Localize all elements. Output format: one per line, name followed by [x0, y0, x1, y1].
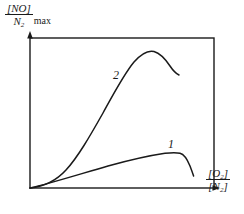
- curve-2-label: 2: [113, 68, 119, 83]
- curve-1-label: 1: [168, 137, 174, 152]
- figure-container: [NO] N2 max [O2] [N2] 2 1: [0, 0, 244, 214]
- y-axis-label: [NO] N2 max: [5, 3, 51, 27]
- plot-frame: [30, 38, 214, 188]
- y-axis-denominator: N2: [5, 15, 33, 27]
- x-axis-numerator: [O2]: [206, 168, 230, 180]
- x-axis-denominator: [N2]: [206, 180, 230, 192]
- up-arrow-icon: [27, 31, 33, 39]
- y-axis-numerator: [NO]: [5, 3, 33, 15]
- x-axis-denominator-subscript: 2: [220, 186, 224, 194]
- x-axis-label: [O2] [N2]: [206, 168, 230, 192]
- y-axis-denominator-subscript: 2: [21, 21, 25, 29]
- x-axis-numerator-subscript: 2: [220, 173, 224, 181]
- curve-1-path: [30, 153, 194, 188]
- x-axis-fraction: [O2] [N2]: [206, 168, 230, 192]
- y-axis-fraction: [NO] N2: [5, 3, 33, 27]
- y-axis-max-suffix: max: [33, 16, 51, 27]
